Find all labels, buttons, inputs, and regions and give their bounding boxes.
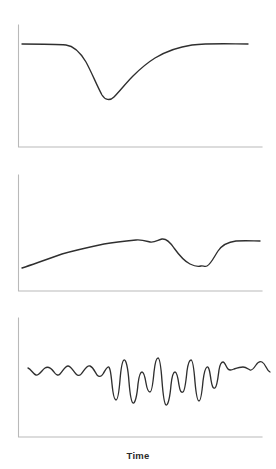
panel-3-trace — [28, 358, 270, 405]
panel-3-axes — [19, 318, 263, 437]
x-axis-title: Time — [0, 450, 276, 462]
chart-panel-3 — [0, 0, 276, 469]
multi-panel-line-chart: Time — [0, 0, 276, 469]
